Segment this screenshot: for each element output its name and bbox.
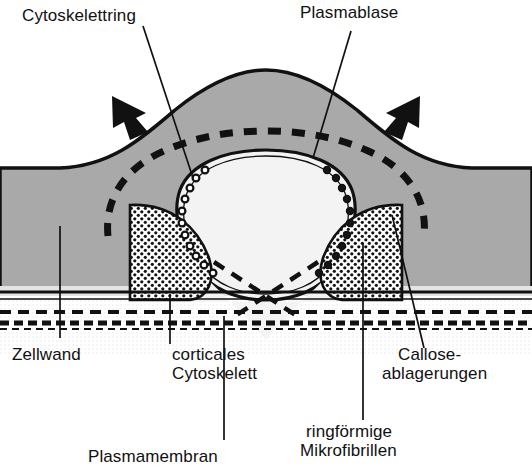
label-plasma-membrane: Plasmamembran [88,447,218,466]
label-microfibrils-line2: Mikrofibrillen [300,441,397,460]
label-callose-line1: Callose- [398,345,461,364]
diagram-canvas: Cytoskelettring Plasmablase Zellwand cor… [0,0,532,472]
label-callose-line2: ablagerungen [382,364,487,383]
compression-arrow-right [384,96,420,140]
compression-arrow-left [112,96,148,140]
label-plasma-bleb: Plasmablase [300,3,398,22]
label-cortical-cytoskeleton-line2: Cytoskelett [172,364,257,383]
label-cytoskeleton-ring: Cytoskelettring [22,6,136,25]
label-cortical-cytoskeleton-line1: corticales [172,345,245,364]
cell-cross-section-figure [0,0,532,472]
label-microfibrils-line1: ringförmige [306,422,392,441]
label-cell-wall: Zellwand [12,345,81,364]
